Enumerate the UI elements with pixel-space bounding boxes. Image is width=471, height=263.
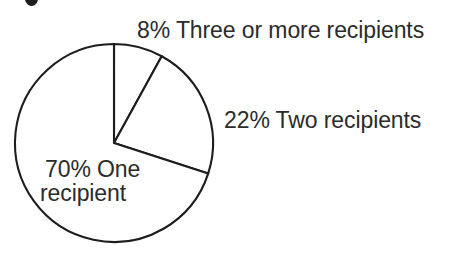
slice-label-two-recipients: 22% Two recipients (224, 108, 421, 133)
slice-label-one-recipient: 70% One recipient (45, 157, 175, 205)
pie-chart-figure: 8% Three or more recipients 22% Two reci… (0, 0, 471, 263)
slice-label-one-recipient-line2: recipient (40, 181, 175, 205)
pie-slices-group (15, 44, 213, 242)
slice-label-one-recipient-line1: 70% One (45, 156, 140, 182)
slice-label-three-or-more-recipients: 8% Three or more recipients (137, 18, 424, 43)
